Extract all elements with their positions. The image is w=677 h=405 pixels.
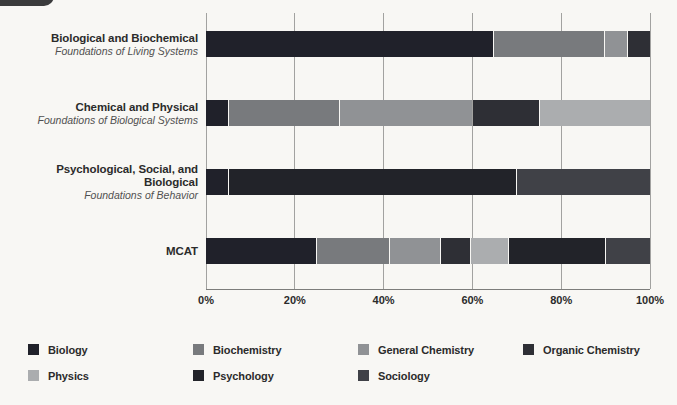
bar-segment-organic-chemistry [473,100,539,126]
legend-label: General Chemistry [378,344,474,356]
bar-segment-physics [471,238,508,264]
row-label-text: Psychological, Social, and Biological [0,163,198,189]
x-axis-ticks: 0%20%40%60%80%100% [206,294,650,308]
bar-segment-psychology [509,238,605,264]
row-label-text: Biological and Biochemical [0,32,198,45]
row-label-text: Chemical and Physical [0,101,198,114]
bar-biological-and-biochemical [206,31,650,57]
legend-swatch-sociology [358,370,369,381]
x-tick-label: 100% [636,294,664,306]
legend-item-sociology: Sociology [358,369,430,382]
row-label-chemical-and-physical: Chemical and PhysicalFoundations of Biol… [0,100,198,126]
x-tick-label: 40% [373,294,395,306]
bar-chemical-and-physical [206,100,650,126]
bar-segment-biology [206,169,228,195]
legend-item-biochemistry: Biochemistry [193,343,282,356]
category-labels: Biological and BiochemicalFoundations of… [0,0,198,300]
x-tick-label: 0% [198,294,214,306]
legend-label: Psychology [213,370,274,382]
legend-swatch-biochemistry [193,344,204,355]
row-sublabel-text: Foundations of Behavior [0,189,198,201]
row-label-biological-and-biochemical: Biological and BiochemicalFoundations of… [0,31,198,57]
legend-label: Organic Chemistry [543,344,640,356]
row-sublabel-text: Foundations of Living Systems [0,45,198,57]
legend-item-organic-chemistry: Organic Chemistry [523,343,640,356]
legend-swatch-biology [28,344,39,355]
bar-segment-biochemistry [317,238,389,264]
legend-swatch-psychology [193,370,204,381]
plot-area [206,13,650,290]
row-label-mcat: MCAT [0,238,198,264]
bar-segment-physics [540,100,650,126]
row-sublabel-text: Foundations of Biological Systems [0,114,198,126]
x-tick-label: 80% [550,294,572,306]
bar-segment-psychology [229,169,516,195]
legend-item-psychology: Psychology [193,369,274,382]
bar-mcat [206,238,650,264]
bar-segment-biochemistry [494,31,604,57]
legend-item-physics: Physics [28,369,89,382]
bar-segment-sociology [517,169,650,195]
row-label-psychological-social-and-biological: Psychological, Social, and BiologicalFou… [0,169,198,195]
bar-segment-biology [206,100,228,126]
x-tick-label: 20% [284,294,306,306]
legend-label: Sociology [378,370,430,382]
bar-segment-sociology [606,238,650,264]
bar-segment-organic-chemistry [628,31,650,57]
bar-segment-general-chemistry [390,238,440,264]
legend-label: Biology [48,344,88,356]
bar-segment-organic-chemistry [441,238,469,264]
bar-segment-general-chemistry [605,31,627,57]
legend-swatch-general-chemistry [358,344,369,355]
bar-psychological-social-and-biological [206,169,650,195]
legend-item-biology: Biology [28,343,88,356]
legend-item-general-chemistry: General Chemistry [358,343,474,356]
bar-segment-general-chemistry [340,100,472,126]
bar-segment-biochemistry [229,100,339,126]
x-tick-label: 60% [461,294,483,306]
legend-label: Biochemistry [213,344,282,356]
legend-swatch-organic-chemistry [523,344,534,355]
legend-label: Physics [48,370,89,382]
bar-segment-biology [206,31,493,57]
bar-segment-biology [206,238,316,264]
row-label-text: MCAT [0,245,198,258]
legend-swatch-physics [28,370,39,381]
page: Biological and BiochemicalFoundations of… [0,0,677,405]
